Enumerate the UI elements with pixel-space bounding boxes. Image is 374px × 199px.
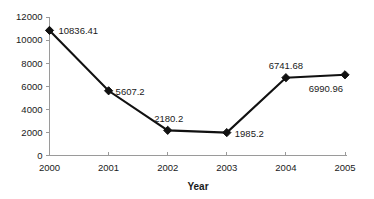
y-tick-label: 4000 xyxy=(21,104,42,115)
x-tick-label: 2000 xyxy=(39,162,60,173)
x-tick-label: 2005 xyxy=(334,162,355,173)
x-tick-label: 2001 xyxy=(98,162,119,173)
data-point-label: 2180.2 xyxy=(154,113,183,124)
x-axis-title: Year xyxy=(187,181,208,192)
data-point-label: 10836.41 xyxy=(59,25,99,36)
y-tick-label: 12000 xyxy=(16,11,42,22)
x-tick-label: 2002 xyxy=(157,162,178,173)
y-tick-label: 2000 xyxy=(21,127,42,138)
chart-canvas: 020004000600080001000012000 200020012002… xyxy=(0,0,374,199)
y-tick-label: 8000 xyxy=(21,58,42,69)
data-point-label: 6990.96 xyxy=(309,83,343,94)
y-tick-label: 10000 xyxy=(16,34,42,45)
data-point-label: 6741.68 xyxy=(269,60,303,71)
x-tick-label: 2004 xyxy=(275,162,296,173)
x-tick-label: 2003 xyxy=(216,162,237,173)
line-chart: 020004000600080001000012000 200020012002… xyxy=(0,0,374,199)
y-tick-label: 0 xyxy=(37,150,42,161)
y-tick-label: 6000 xyxy=(21,81,42,92)
data-point-label: 1985.2 xyxy=(235,128,264,139)
data-point-label: 5607.2 xyxy=(116,86,145,97)
